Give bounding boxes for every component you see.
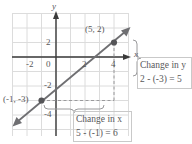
point-marker-5-2	[111, 39, 117, 45]
y-axis-arrowhead	[53, 11, 59, 19]
x-axis-arrowhead	[123, 54, 131, 60]
point-marker-neg1-neg3	[38, 97, 44, 103]
point-label-neg1-neg3: (-1, -3)	[3, 95, 29, 104]
y-axis-label: y	[52, 2, 56, 11]
point-label-5-2: (5, 2)	[85, 25, 105, 34]
y-tick-label-2: 2	[46, 38, 51, 47]
x-axis-label: x	[134, 50, 138, 59]
x-tick-label-4: 4	[111, 60, 116, 69]
coordinate-graph-figure: -2 0 2 4 2 -2 -4 x y (5, 2) (-1, -3) Cha…	[0, 0, 192, 144]
y-tick-label-neg2: -2	[44, 81, 52, 90]
y-tick-label-neg4: -4	[44, 110, 52, 119]
change-in-x-equation: 5 - (-1) = 6	[76, 129, 118, 139]
change-in-y-equation: 2 - (-3) = 5	[140, 75, 182, 85]
x-tick-label-neg2: -2	[26, 60, 34, 69]
change-in-x-title: Change in x	[76, 115, 122, 125]
change-in-y-title: Change in y	[140, 61, 186, 71]
x-tick-label-2: 2	[82, 60, 87, 69]
origin-label: 0	[46, 60, 51, 69]
